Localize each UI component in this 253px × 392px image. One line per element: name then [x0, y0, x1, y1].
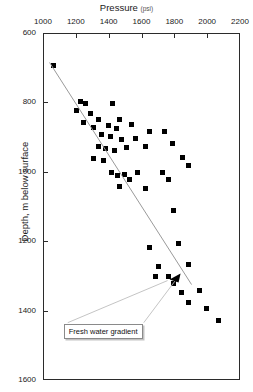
- y-tick-label-1000: 1000: [0, 167, 36, 176]
- y-tick-mark-1400: [43, 311, 48, 312]
- y-tick-mark-1000: [43, 172, 48, 173]
- data-point: [176, 241, 181, 246]
- data-point: [186, 300, 191, 305]
- y-tick-label-1400: 1400: [0, 306, 36, 315]
- data-point: [110, 101, 115, 106]
- data-point: [115, 173, 120, 178]
- data-point: [162, 129, 167, 134]
- data-point: [117, 184, 122, 189]
- y-tick-label-1600: 1600: [0, 375, 36, 384]
- x-tick-mark-1400: [109, 33, 110, 38]
- data-point: [108, 134, 113, 139]
- data-point: [127, 177, 132, 182]
- y-tick-label-600: 600: [0, 28, 36, 37]
- y-tick-label-800: 800: [0, 97, 36, 106]
- data-point: [112, 148, 117, 153]
- data-point: [153, 274, 158, 279]
- data-point: [186, 163, 191, 168]
- data-point: [83, 101, 88, 106]
- data-point: [91, 156, 96, 161]
- data-point: [103, 146, 108, 151]
- data-point: [106, 123, 111, 128]
- y-tick-label-1200: 1200: [0, 236, 36, 245]
- data-point: [129, 122, 134, 127]
- data-point: [171, 281, 176, 286]
- data-point: [216, 318, 221, 323]
- data-point: [101, 158, 106, 163]
- data-point: [160, 170, 165, 175]
- data-point: [143, 186, 148, 191]
- data-point: [109, 170, 114, 175]
- x-axis-title-text: Pressure: [100, 2, 138, 13]
- data-point: [96, 117, 101, 122]
- data-point: [51, 63, 56, 68]
- data-point: [114, 126, 119, 131]
- data-point: [156, 264, 161, 269]
- data-point: [171, 208, 176, 213]
- data-point: [96, 144, 101, 149]
- data-point: [204, 306, 209, 311]
- data-point: [186, 262, 191, 267]
- data-point: [81, 120, 86, 125]
- x-tick-mark-1800: [174, 33, 175, 38]
- data-point: [78, 99, 83, 104]
- data-point: [180, 155, 185, 160]
- data-point: [197, 288, 202, 293]
- data-point: [99, 132, 104, 137]
- data-point: [170, 141, 175, 146]
- x-axis-title: Pressure (psi): [0, 2, 253, 13]
- data-point: [117, 117, 122, 122]
- x-tick-mark-2000: [207, 33, 208, 38]
- x-tick-label-2200: 2200: [220, 17, 253, 26]
- data-point: [166, 274, 171, 279]
- data-point: [91, 125, 96, 130]
- data-point: [179, 290, 184, 295]
- x-tick-mark-1200: [76, 33, 77, 38]
- data-point: [133, 136, 138, 141]
- data-point: [143, 144, 148, 149]
- data-point: [147, 245, 152, 250]
- data-point: [135, 170, 140, 175]
- data-point: [119, 137, 124, 142]
- x-axis-title-unit: (psi): [141, 5, 154, 12]
- x-tick-mark-1600: [142, 33, 143, 38]
- data-point: [74, 108, 79, 113]
- fresh-water-gradient-annotation-box: Fresh water gradient: [64, 324, 143, 339]
- pressure-depth-scatter-chart: Pressure (psi) Depth, m below surface 10…: [0, 0, 253, 392]
- data-point: [147, 129, 152, 134]
- data-point: [166, 177, 171, 182]
- data-point: [124, 145, 129, 150]
- y-tick-mark-1200: [43, 241, 48, 242]
- annotation-text: Fresh water gradient: [69, 327, 138, 336]
- y-tick-mark-800: [43, 102, 48, 103]
- data-point: [88, 111, 93, 116]
